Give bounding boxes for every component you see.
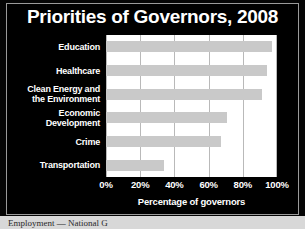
category-axis-labels: EducationHealthcareClean Energy andthe E…: [4, 35, 103, 177]
category-label-line: Crime: [4, 137, 100, 147]
x-tick-label: 60%: [199, 179, 217, 190]
bar-row: [106, 106, 277, 130]
category-label: Transportation: [4, 160, 100, 170]
bar-row: [106, 35, 277, 59]
plot-area: [106, 35, 277, 177]
category-label-line: Transportation: [4, 160, 100, 170]
x-tick-label: 20%: [131, 179, 149, 190]
bar: [106, 41, 272, 52]
category-label-line: Healthcare: [4, 66, 100, 76]
bar: [106, 136, 221, 147]
category-label: Healthcare: [4, 66, 100, 76]
bar: [106, 112, 227, 123]
category-label-line: Education: [4, 42, 100, 52]
bar: [106, 160, 164, 171]
x-tick-label: 100%: [265, 179, 289, 190]
x-tick-label: 40%: [165, 179, 183, 190]
chart-title: Priorities of Governors, 2008: [10, 6, 295, 28]
bars-layer: [106, 35, 277, 177]
bar: [106, 65, 267, 76]
caption-strip: Employment — National G: [0, 216, 305, 229]
x-axis-tick-labels: 0%20%40%60%80%100%: [106, 179, 277, 192]
bar: [106, 89, 262, 100]
category-label: EconomicDevelopment: [4, 108, 100, 128]
category-label-line: Economic: [4, 108, 100, 118]
x-axis-title: Percentage of governors: [106, 196, 277, 207]
bar-row: [106, 82, 277, 106]
bar-row: [106, 153, 277, 177]
category-label: Education: [4, 42, 100, 52]
category-label-line: Clean Energy and: [4, 84, 100, 94]
category-label: Clean Energy andthe Environment: [4, 84, 100, 104]
caption-text: Employment — National G: [8, 218, 108, 228]
category-label-line: Development: [4, 118, 100, 128]
bar-row: [106, 130, 277, 154]
bar-row: [106, 59, 277, 83]
x-tick-label: 0%: [99, 179, 112, 190]
chart-figure: Priorities of Governors, 2008 EducationH…: [0, 0, 305, 229]
category-label-line: the Environment: [4, 94, 100, 104]
x-tick-label: 80%: [234, 179, 252, 190]
category-label: Crime: [4, 137, 100, 147]
